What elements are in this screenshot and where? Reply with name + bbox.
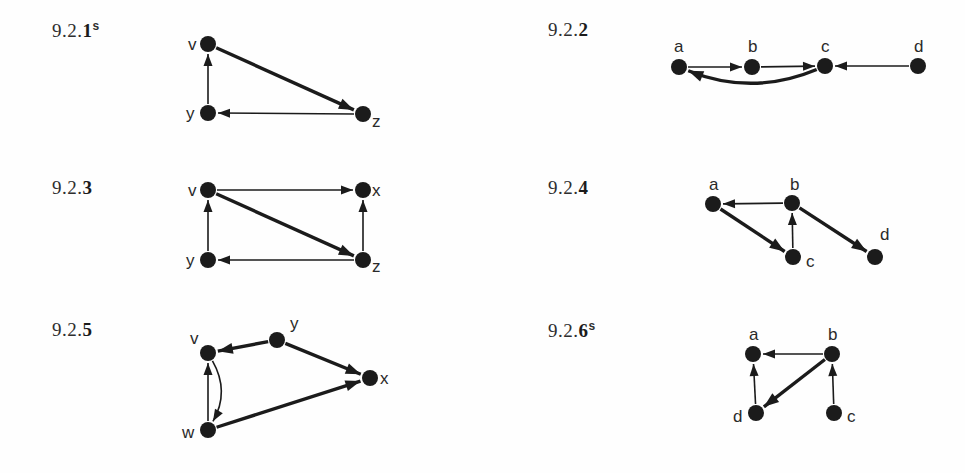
exercise-number-prefix: 9.2.	[52, 20, 83, 41]
edge-v-to-w	[212, 361, 222, 422]
node-label-y: y	[186, 252, 195, 269]
edge-arrowhead	[828, 364, 837, 376]
graph-node-a	[705, 196, 721, 212]
exercise-number-9-2-3: 9.2.3	[52, 178, 93, 197]
node-label-y: y	[186, 105, 195, 122]
edge-line	[723, 203, 783, 204]
edge-arrowhead	[763, 350, 775, 359]
graph-node-a	[671, 59, 687, 75]
edge-b-to-d	[764, 360, 825, 407]
edge-w-to-v	[204, 363, 213, 421]
edge-z-to-y	[218, 256, 354, 265]
edge-arrowhead	[204, 200, 213, 212]
graph-9-2-3	[200, 182, 371, 268]
edge-arrowhead	[851, 239, 867, 252]
node-label-y: y	[290, 315, 299, 332]
exercise-number-prefix: 9.2.	[548, 19, 579, 40]
exercise-number-last-digit: 2	[579, 19, 589, 40]
exercise-number-last-digit: 6	[579, 320, 589, 341]
node-label-v: v	[190, 330, 199, 347]
graph-node-v	[200, 345, 216, 361]
exercise-number-9-2-6: 9.2.6s	[548, 320, 595, 340]
node-label-a: a	[674, 38, 683, 55]
exercise-number-last-digit: 1	[83, 20, 93, 41]
graph-node-c	[785, 249, 801, 265]
node-label-c: c	[847, 408, 856, 425]
edge-b-to-a	[763, 350, 823, 359]
edge-y-to-x	[285, 343, 360, 374]
node-label-a: a	[749, 326, 758, 343]
edge-arrowhead	[345, 380, 361, 390]
edge-arrowhead	[204, 54, 213, 66]
node-label-a: a	[709, 176, 718, 193]
node-label-w: w	[182, 424, 194, 441]
exercise-number-9-2-1: 9.2.1s	[52, 20, 99, 40]
edge-line	[792, 213, 793, 248]
edge-v-to-x	[217, 186, 353, 195]
edge-arrowhead	[218, 109, 230, 118]
node-label-c: c	[821, 38, 830, 55]
edge-arrowhead	[769, 239, 785, 252]
exercise-number-superscript: s	[589, 319, 596, 333]
edge-arrowhead	[688, 71, 704, 82]
exercise-number-last-digit: 5	[83, 319, 93, 340]
edge-b-to-d	[800, 208, 867, 252]
graph-9-2-5	[200, 332, 378, 438]
node-label-b: b	[828, 326, 837, 343]
node-label-b: b	[748, 38, 757, 55]
edge-d-to-a	[750, 364, 759, 404]
edge-arrowhead	[338, 245, 354, 256]
exercise-number-prefix: 9.2.	[52, 177, 83, 198]
graph-node-b	[744, 59, 760, 75]
graph-9-2-1	[200, 36, 371, 122]
graph-node-v	[200, 182, 216, 198]
edge-line	[761, 66, 815, 67]
graph-node-w	[200, 422, 216, 438]
edge-w-to-x	[217, 380, 361, 427]
edge-arrowhead	[788, 213, 797, 225]
node-label-d: d	[880, 226, 889, 243]
node-label-v: v	[188, 182, 197, 199]
edge-arrowhead	[204, 363, 213, 375]
directed-graph-drawing-layer	[0, 0, 965, 473]
edge-arrowhead	[338, 99, 354, 110]
edge-d-to-c	[835, 62, 909, 71]
node-label-v: v	[188, 36, 197, 53]
edge-line	[217, 381, 361, 427]
edge-arrowhead	[835, 62, 847, 71]
edge-line	[216, 48, 354, 110]
edge-line	[216, 194, 354, 256]
node-label-d: d	[914, 38, 923, 55]
graph-node-a	[745, 346, 761, 362]
edge-v-to-z	[216, 48, 354, 110]
edge-y-to-v	[204, 200, 213, 251]
edge-arrowhead	[218, 256, 230, 265]
exercise-number-prefix: 9.2.	[548, 177, 579, 198]
exercise-number-prefix: 9.2.	[52, 319, 83, 340]
exercise-number-9-2-4: 9.2.4	[548, 178, 589, 197]
edge-line	[721, 209, 785, 252]
edge-c-to-a	[688, 69, 816, 83]
edge-arrowhead	[213, 409, 223, 422]
edge-arrowhead	[730, 63, 742, 72]
node-label-z: z	[372, 258, 381, 275]
node-label-b: b	[790, 176, 799, 193]
edge-line	[832, 364, 833, 404]
edge-z-to-y	[218, 109, 354, 118]
edge-line	[764, 360, 825, 407]
node-label-x: x	[380, 370, 389, 387]
graph-node-d	[910, 58, 926, 74]
graph-node-d	[867, 249, 883, 265]
edge-arrowhead	[359, 200, 368, 212]
graph-node-y	[200, 105, 216, 121]
graph-node-x	[355, 182, 371, 198]
graph-node-z	[355, 106, 371, 122]
graph-9-2-4	[705, 195, 883, 265]
node-label-c: c	[806, 253, 815, 270]
edge-c-to-b	[788, 213, 797, 248]
exercise-number-last-digit: 3	[83, 177, 93, 198]
exercise-number-9-2-2: 9.2.2	[548, 20, 589, 39]
edge-c-to-b	[828, 364, 837, 404]
graph-node-v	[200, 36, 216, 52]
exercise-number-last-digit: 4	[579, 177, 589, 198]
